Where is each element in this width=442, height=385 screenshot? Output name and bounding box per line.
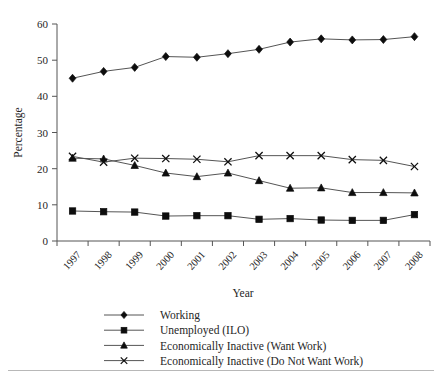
data-point (256, 216, 262, 222)
data-point (163, 213, 169, 219)
data-point (318, 217, 324, 223)
x-tick-label: 2000 (154, 249, 176, 272)
x-tick-label: 2007 (372, 249, 394, 272)
series-line (73, 158, 415, 193)
y-tick-label: 60 (37, 18, 49, 30)
y-tick-label: 40 (37, 90, 49, 102)
data-point (411, 33, 418, 41)
data-point (287, 215, 293, 221)
x-tick-label: 2006 (341, 249, 363, 272)
legend-square-marker (121, 327, 127, 333)
data-point (162, 53, 169, 61)
data-point (193, 53, 200, 61)
legend-diamond-marker (121, 311, 127, 318)
chart-legend: WorkingUnemployed (ILO)Economically Inac… (104, 309, 363, 368)
x-tick-label: 1997 (61, 249, 83, 272)
data-point (349, 217, 355, 223)
data-point (100, 67, 107, 75)
y-tick-label: 20 (37, 163, 49, 175)
legend-item[interactable]: Unemployed (ILO) (104, 324, 249, 337)
x-tick-label: 1999 (123, 249, 145, 272)
data-point (380, 217, 386, 223)
data-point (287, 38, 294, 46)
legend-item[interactable]: Economically Inactive (Want Work) (104, 340, 326, 353)
data-point (132, 209, 138, 215)
x-tick-labels: 1997199819992000200120022003200420052006… (61, 248, 425, 272)
data-point (256, 45, 263, 53)
legend-label: Working (160, 309, 200, 322)
data-point (349, 36, 356, 44)
series-line (73, 211, 415, 220)
data-point (100, 209, 106, 215)
y-tick-label: 0 (43, 235, 49, 247)
data-point (411, 211, 417, 217)
legend-label: Economically Inactive (Want Work) (160, 340, 326, 353)
series-line (73, 37, 415, 79)
x-tick-label: 2002 (216, 249, 238, 272)
y-tick-label: 50 (37, 54, 49, 66)
series-triangle (69, 154, 418, 196)
legend-item[interactable]: Working (104, 309, 200, 322)
data-point (224, 169, 231, 176)
y-tick-label: 30 (37, 127, 49, 139)
data-point (225, 50, 232, 58)
y-axis-title: Percentage (12, 107, 25, 157)
series-cross (69, 152, 418, 170)
y-tick-marks (52, 24, 57, 241)
series-line (73, 156, 415, 167)
series-layer (69, 33, 418, 224)
data-point (225, 212, 231, 218)
x-tick-label: 2008 (403, 249, 425, 272)
y-tick-label: 10 (37, 199, 49, 211)
x-tick-marks (57, 241, 430, 246)
data-point (318, 35, 325, 43)
legend-label: Unemployed (ILO) (160, 324, 249, 337)
legend-item[interactable]: Economically Inactive (Do Not Want Work) (104, 355, 363, 368)
legend-label: Economically Inactive (Do Not Want Work) (160, 355, 363, 368)
data-point (131, 63, 138, 71)
data-point (194, 212, 200, 218)
x-tick-label: 2004 (278, 248, 301, 272)
footer-divider (8, 370, 434, 371)
data-point (69, 74, 76, 82)
x-tick-label: 1998 (92, 249, 114, 272)
y-tick-labels: 60 50 40 30 20 10 0 (37, 18, 49, 247)
data-point (69, 208, 75, 214)
series-diamond (69, 33, 418, 83)
figure-container: 60 50 40 30 20 10 0 Percentage 199719981… (0, 0, 442, 385)
x-tick-label: 2005 (309, 249, 331, 272)
x-tick-label: 2003 (247, 249, 269, 272)
x-tick-label: 2001 (185, 249, 207, 272)
series-square (69, 208, 417, 224)
x-axis-title: Year (232, 287, 253, 299)
line-chart: 60 50 40 30 20 10 0 Percentage 199719981… (0, 0, 442, 385)
data-point (380, 36, 387, 44)
